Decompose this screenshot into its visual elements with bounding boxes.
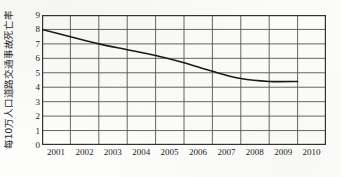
x-axis-tick-label: 2002 [75,147,93,157]
x-axis-tick-label: 2005 [161,147,179,157]
x-axis-tick-label: 2004 [132,147,150,157]
x-axis-tick-label: 2007 [217,147,235,157]
y-axis-title: 每10万人口道路交通事故死亡率 [1,0,17,160]
y-axis-tick-label: 5 [28,68,40,78]
y-axis-tick-labels: 0123456789 [26,15,40,145]
x-axis-tick-label: 2008 [246,147,264,157]
y-axis-title-text: 每10万人口道路交通事故死亡率 [4,10,14,149]
x-axis-tick-label: 2009 [274,147,292,157]
y-axis-tick-label: 7 [28,39,40,49]
y-axis-tick-label: 9 [28,10,40,20]
y-axis-tick-label: 4 [28,82,40,92]
chart-screenshot: 每10万人口道路交通事故死亡率 0123456789 2001200220032… [0,0,341,177]
plot-area [42,15,326,145]
x-axis-tick-label: 2006 [189,147,207,157]
x-axis-tick-labels: 2001200220032004200520062007200820092010 [42,147,326,163]
y-axis-tick-label: 1 [28,126,40,136]
line-chart-svg [42,15,326,145]
y-axis-tick-label: 2 [28,111,40,121]
y-axis-tick-label: 3 [28,97,40,107]
y-axis-tick-label: 8 [28,24,40,34]
x-axis-tick-label: 2001 [47,147,65,157]
x-axis-tick-label: 2010 [303,147,321,157]
y-axis-tick-label: 6 [28,53,40,63]
data-line-series-0 [42,29,298,81]
x-axis-tick-label: 2003 [104,147,122,157]
y-axis-tick-label: 0 [28,140,40,150]
vertical-gridlines [70,15,297,145]
